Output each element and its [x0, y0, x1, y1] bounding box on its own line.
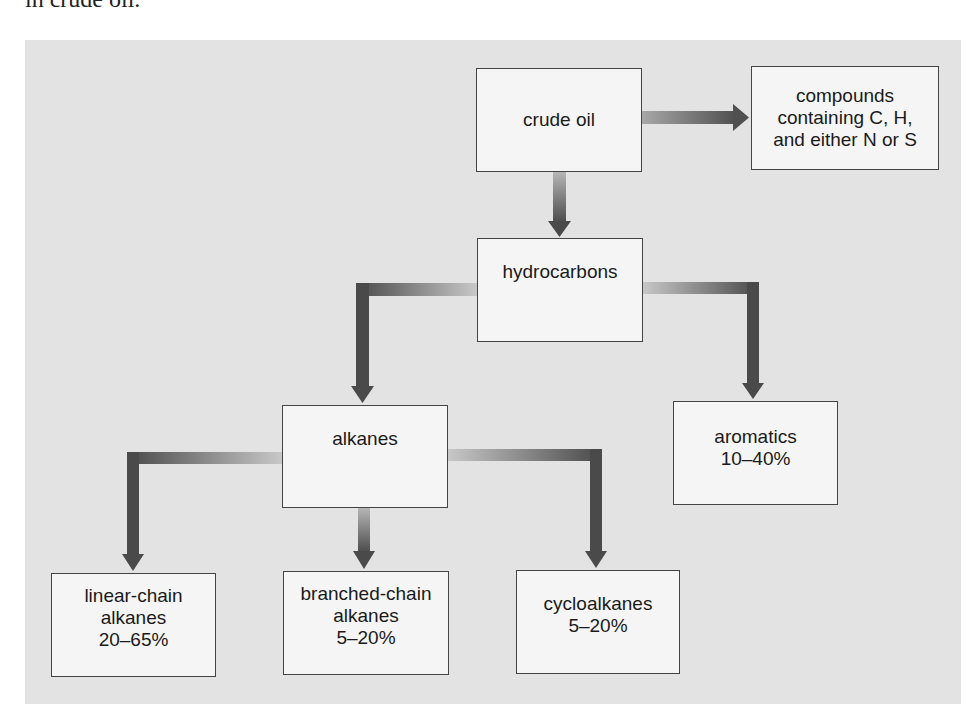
node-label: alkanes	[101, 607, 167, 629]
node-label: 10–40%	[721, 448, 791, 470]
node-compounds: compounds containing C, H, and either N …	[751, 66, 939, 170]
node-label: 20–65%	[99, 629, 169, 651]
node-label: branched-chain	[301, 583, 432, 605]
node-hydrocarbons: hydrocarbons	[477, 238, 643, 342]
node-label: alkanes	[333, 605, 399, 627]
node-label: 5–20%	[336, 627, 395, 649]
node-label: alkanes	[332, 428, 398, 450]
arrow-hydrocarbons-to-aromatics	[642, 282, 764, 399]
arrow-alkanes-to-branched	[353, 507, 375, 569]
arrow-alkanes-to-linear	[122, 452, 282, 571]
node-crude-oil: crude oil	[476, 68, 642, 172]
node-cycloalkanes: cycloalkanes 5–20%	[516, 570, 680, 674]
arrow-crude-to-hydrocarbons	[548, 171, 571, 237]
node-label: 5–20%	[568, 615, 627, 637]
node-branched-chain-alkanes: branched-chain alkanes 5–20%	[283, 571, 449, 675]
arrow-crude-to-compounds	[641, 104, 749, 131]
node-label: containing C, H,	[777, 107, 912, 129]
node-label: crude oil	[523, 109, 595, 131]
node-alkanes: alkanes	[282, 405, 448, 508]
node-label: compounds	[796, 85, 894, 107]
node-label: linear-chain	[84, 585, 182, 607]
node-label: cycloalkanes	[544, 593, 653, 615]
node-aromatics: aromatics 10–40%	[673, 401, 838, 505]
node-label: and either N or S	[773, 129, 917, 151]
node-linear-chain-alkanes: linear-chain alkanes 20–65%	[51, 573, 216, 677]
arrow-alkanes-to-cycloalkanes	[447, 449, 607, 568]
node-label: aromatics	[714, 426, 796, 448]
node-label: hydrocarbons	[502, 261, 617, 283]
arrow-hydrocarbons-to-alkanes	[351, 283, 477, 403]
